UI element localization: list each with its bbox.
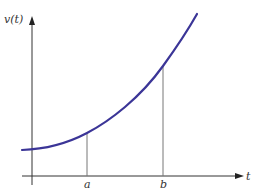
tick-label-b: b bbox=[160, 178, 167, 191]
y-axis-arrow-icon bbox=[29, 16, 35, 25]
x-axis-label: t bbox=[246, 170, 251, 183]
x-axis-arrow-icon bbox=[235, 173, 244, 179]
tick-label-a: a bbox=[84, 178, 91, 191]
curve-v-t bbox=[22, 14, 197, 150]
chart: v(t) t a b bbox=[0, 0, 258, 195]
y-axis-label: v(t) bbox=[4, 13, 23, 26]
